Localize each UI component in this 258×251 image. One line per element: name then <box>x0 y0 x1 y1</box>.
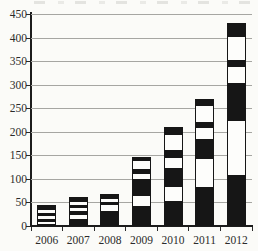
y-axis-line <box>30 12 32 227</box>
y-axis-label-50: 50 <box>0 196 27 209</box>
bar-segment-2006-0 <box>38 224 55 225</box>
bar-segment-2012-5 <box>228 37 245 60</box>
y-axis-label-200: 200 <box>0 126 27 139</box>
bar-2010 <box>164 127 183 226</box>
bar-2009 <box>132 157 151 226</box>
x-axis-tick-3 <box>125 227 126 231</box>
x-axis-tick-7 <box>252 227 253 231</box>
bar-segment-2009-5 <box>133 161 150 169</box>
x-axis-tick-1 <box>62 227 63 231</box>
bar-segment-2012-0 <box>228 175 245 225</box>
bar-segment-2012-2 <box>228 83 245 121</box>
bar-segment-2012-3 <box>228 67 245 83</box>
bar-segment-2011-5 <box>196 106 213 122</box>
bar-segment-2012-6 <box>228 24 245 37</box>
bar-segment-2010-4 <box>165 150 182 158</box>
x-axis-tick-5 <box>188 227 189 231</box>
y-axis-label-150: 150 <box>0 149 27 162</box>
y-axis-label-350: 350 <box>0 55 27 68</box>
y-axis-label-0: 0 <box>0 220 27 233</box>
bar-segment-2010-2 <box>165 168 182 187</box>
gridline-150 <box>31 155 252 156</box>
bar-segment-2007-0 <box>70 219 87 225</box>
x-axis-label-2011: 2011 <box>189 233 221 247</box>
gridline-450 <box>31 14 252 15</box>
bar-segment-2011-1 <box>196 159 213 187</box>
gridline-250 <box>31 108 252 109</box>
bar-segment-2010-6 <box>165 128 182 135</box>
x-axis-label-2012: 2012 <box>220 233 252 247</box>
bar-segment-2010-0 <box>165 201 182 225</box>
y-axis-label-250: 250 <box>0 102 27 115</box>
bar-segment-2012-4 <box>228 60 245 68</box>
x-axis-label-2007: 2007 <box>62 233 94 247</box>
bar-segment-2010-5 <box>165 135 182 150</box>
bar-segment-2010-3 <box>165 158 182 167</box>
x-axis-label-2006: 2006 <box>31 233 63 247</box>
gridline-350 <box>31 61 252 62</box>
y-axis-label-300: 300 <box>0 79 27 92</box>
x-axis-tick-6 <box>220 227 221 231</box>
gridline-300 <box>31 85 252 86</box>
bar-segment-2011-2 <box>196 139 213 159</box>
gridline-200 <box>31 132 252 133</box>
bar-segment-2012-1 <box>228 121 245 175</box>
y-axis-label-100: 100 <box>0 173 27 186</box>
bar-2006 <box>37 205 56 226</box>
x-axis-label-2010: 2010 <box>157 233 189 247</box>
y-axis-label-450: 450 <box>0 8 27 21</box>
gridline-400 <box>31 38 252 39</box>
stacked-bar-chart: 0501001502002503003504004502006200720082… <box>0 0 258 251</box>
x-axis-tick-2 <box>94 227 95 231</box>
bar-2011 <box>195 99 214 226</box>
bar-2007 <box>69 197 88 226</box>
x-axis-tick-4 <box>157 227 158 231</box>
x-axis-label-2008: 2008 <box>94 233 126 247</box>
x-axis-label-2009: 2009 <box>126 233 158 247</box>
y-axis-label-400: 400 <box>0 32 27 45</box>
bar-segment-2011-3 <box>196 128 213 139</box>
bar-segment-2008-0 <box>101 211 118 225</box>
bar-2012 <box>227 23 246 226</box>
cropped-text-remnant <box>34 1 250 4</box>
bar-segment-2009-0 <box>133 206 150 225</box>
bar-segment-2011-0 <box>196 187 213 225</box>
bar-segment-2010-1 <box>165 187 182 202</box>
bar-segment-2009-1 <box>133 196 150 206</box>
x-axis-tick-0 <box>31 227 32 231</box>
bar-2008 <box>100 194 119 226</box>
bar-segment-2009-2 <box>133 179 150 196</box>
